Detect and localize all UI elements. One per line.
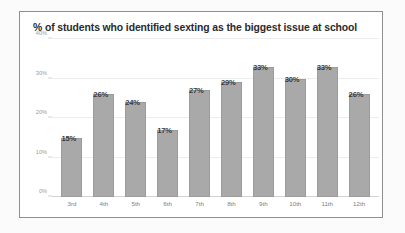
bar[interactable]: 33% [317,67,338,197]
bar-value-label: 26% [349,90,364,99]
x-axis-tick-label: 5th [120,200,152,207]
bar-slot: 33% [247,39,279,197]
x-axis-tick-label: 10th [279,200,311,207]
bar-value-label: 24% [125,98,140,107]
bar[interactable]: 24% [125,102,146,197]
y-axis-tick-label: 20% [36,109,47,115]
bar-slot: 33% [311,39,343,197]
y-axis-tick-label: 40% [36,30,47,36]
x-axis-tick-label: 12th [343,200,375,207]
bar[interactable]: 27% [189,90,210,197]
bar[interactable]: 17% [157,130,178,197]
x-axis-tick-label: 9th [247,200,279,207]
x-axis-tick-label: 3rd [56,200,88,207]
chart-title: % of students who identified sexting as … [33,22,378,33]
x-axis-tick-label: 4th [88,200,120,207]
bar-value-label: 30% [285,75,300,84]
bar-value-label: 17% [157,126,172,135]
x-axis-tick-label: 7th [184,200,216,207]
x-axis-tick-label: 11th [311,200,343,207]
bar[interactable]: 26% [349,94,370,197]
bar-value-label: 33% [317,63,332,72]
bar-series: 15%26%24%17%27%29%33%30%33%26% [52,39,379,197]
x-axis-tick-label: 8th [216,200,248,207]
y-axis-tick-label: 0% [39,188,47,194]
bar[interactable]: 30% [285,79,306,198]
x-axis-tick-label: 6th [152,200,184,207]
bar-slot: 26% [88,39,120,197]
x-axis-labels: 3rd4th5th6th7th8th9th10th11th12th [52,200,379,207]
y-axis-tick-label: 10% [36,149,47,155]
bar[interactable]: 29% [221,82,242,197]
y-axis-tick-label: 30% [36,70,47,76]
bar-value-label: 15% [61,134,76,143]
bar-slot: 27% [184,39,216,197]
bar-slot: 15% [56,39,88,197]
bar-slot: 29% [216,39,248,197]
bar[interactable]: 26% [93,94,114,197]
bar-slot: 24% [120,39,152,197]
bar-value-label: 33% [253,63,268,72]
bar-value-label: 29% [221,78,236,87]
chart-page: % of students who identified sexting as … [0,0,405,233]
bar-value-label: 26% [93,90,108,99]
bar-slot: 17% [152,39,184,197]
bar-slot: 30% [279,39,311,197]
plot-area: 0%10%20%30%40% 15%26%24%17%27%29%33%30%3… [52,39,379,197]
bar[interactable]: 33% [253,67,274,197]
bar-value-label: 27% [189,86,204,95]
bar-slot: 26% [343,39,375,197]
bar[interactable]: 15% [61,138,82,197]
chart-card: % of students who identified sexting as … [19,11,383,218]
